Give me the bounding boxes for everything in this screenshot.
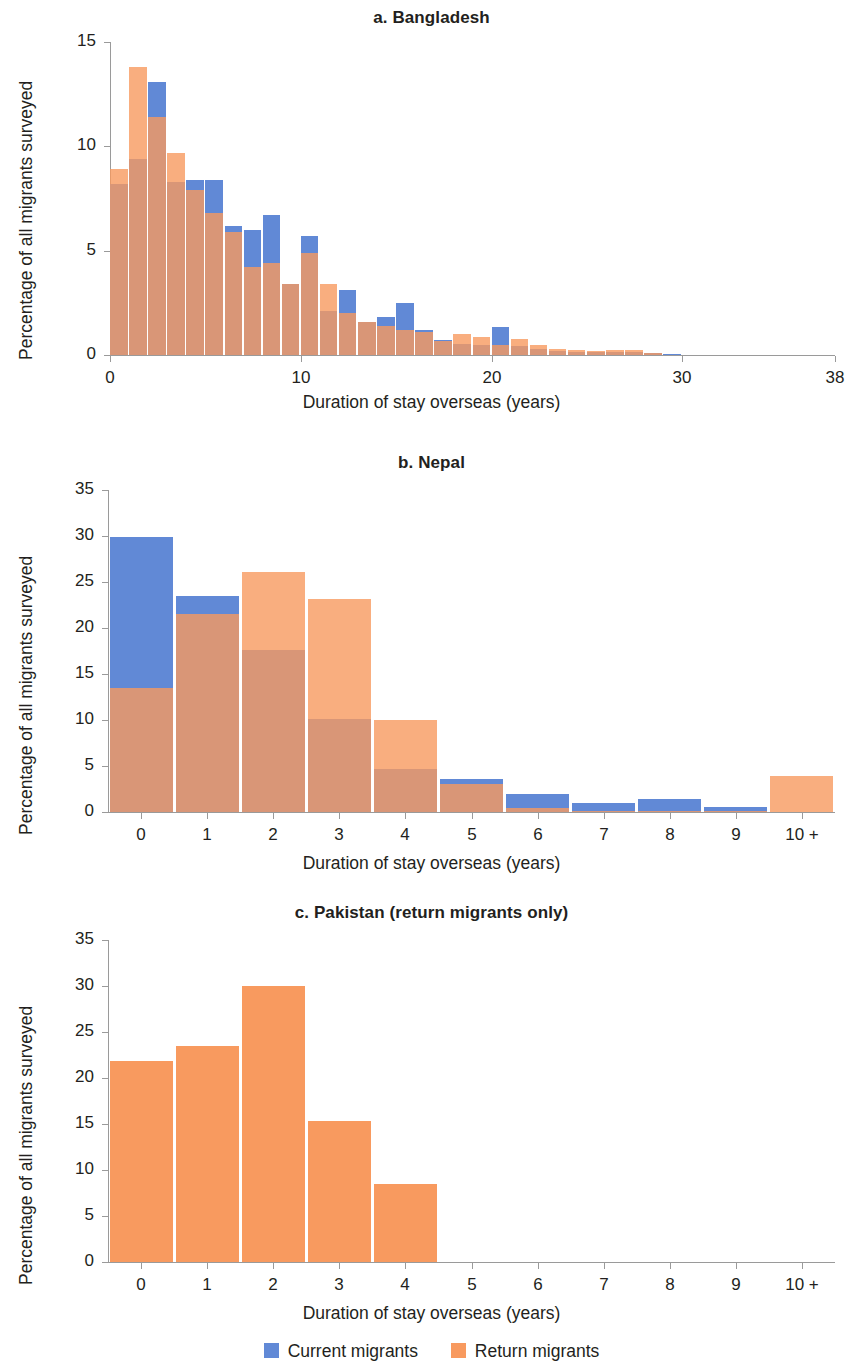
panel-a-x-tick-2 [492,356,493,362]
panel-c-x-tick-0 [141,1263,142,1269]
panel-a-bar-return-4 [186,190,204,355]
panel-a-bar-return-10 [301,253,319,355]
panel-b-bar-return-8 [638,811,701,812]
panel-b-x-tick-10 [802,813,803,819]
panel-b-x-tick-label-10: 10 + [767,825,837,845]
panel-a-bar-return-24 [568,350,586,355]
panel-b-y-tick-label-4: 20 [50,617,94,637]
panel-a-x-tick-label-0: 0 [75,368,145,388]
panel-c-x-tick-label-7: 7 [569,1275,639,1295]
panel-c-x-tick-label-9: 9 [701,1275,771,1295]
panel-b-y-tick-label-0: 0 [50,801,94,821]
panel-c-x-tick-2 [273,1263,274,1269]
panel-a-x-tick-label-3: 30 [647,368,717,388]
panel-c-bar-return-2 [242,986,305,1262]
panel-a-bar-return-26 [606,350,624,355]
panel-b-y-tick-0 [102,812,108,813]
panel-c-bar-return-4 [374,1184,437,1262]
panel-a-bar-return-18 [453,334,471,355]
legend-label-current-migrants: Current migrants [288,1341,418,1362]
panel-a-bar-return-17 [434,341,452,355]
panel-c-title: c. Pakistan (return migrants only) [0,903,863,923]
panel-b-x-tick-label-1: 1 [172,825,242,845]
panel-c-y-tick-label-1: 5 [50,1205,94,1225]
panel-b-bar-return-5 [440,784,503,812]
panel-b-bar-return-10 [770,776,833,812]
panel-a-bar-return-23 [549,349,567,355]
legend-item-return-migrants: Return migrants [451,1341,600,1362]
panel-b-y-tick-label-7: 35 [50,479,94,499]
panel-a-y-axis-label: Percentage of all migrants surveyed [16,81,37,360]
panel-b-x-tick-7 [604,813,605,819]
panel-a-x-axis-label: Duration of stay overseas (years) [0,392,863,413]
panel-a-bar-return-28 [644,353,662,355]
panel-b-bar-current-8 [638,799,701,812]
panel-a-bar-return-6 [225,232,243,355]
panel-b-y-tick-label-3: 15 [50,663,94,683]
panel-b-bar-return-9 [704,811,767,812]
panel-bangladesh: a. Bangladesh Percentage of all migrants… [0,0,863,430]
panel-b-x-tick-label-8: 8 [635,825,705,845]
panel-a-y-tick-label-1: 5 [52,240,96,260]
panel-c-x-tick-4 [405,1263,406,1269]
panel-a-bar-return-25 [587,351,605,355]
panel-c-x-tick-1 [207,1263,208,1269]
panel-a-bar-return-21 [511,339,529,355]
panel-c-y-tick-label-5: 25 [50,1021,94,1041]
panel-a-x-tick-1 [301,356,302,362]
panel-b-x-tick-8 [670,813,671,819]
panel-a-bar-return-9 [282,284,300,355]
panel-a-bar-return-15 [396,330,414,355]
panel-a-y-tick-label-3: 15 [52,31,96,51]
panel-c-y-tick-label-4: 20 [50,1067,94,1087]
panel-a-x-tick-4 [835,356,836,362]
panel-c-x-tick-label-6: 6 [503,1275,573,1295]
panel-a-x-tick-0 [110,356,111,362]
panel-c-x-tick-6 [538,1263,539,1269]
panel-b-bar-return-1 [176,614,239,812]
panel-b-bar-return-7 [572,811,635,812]
panel-b-bar-return-4 [374,720,437,812]
panel-b-y-tick-label-1: 5 [50,755,94,775]
panel-b-x-tick-label-2: 2 [238,825,308,845]
panel-c-x-tick-5 [472,1263,473,1269]
panel-b-x-tick-0 [141,813,142,819]
panel-b-x-tick-2 [273,813,274,819]
panel-c-x-tick-7 [604,1263,605,1269]
panel-b-title: b. Nepal [0,453,863,473]
panel-c-x-tick-3 [339,1263,340,1269]
panel-b-x-tick-1 [207,813,208,819]
panel-b-x-tick-3 [339,813,340,819]
panel-b-x-tick-label-7: 7 [569,825,639,845]
panel-c-y-axis-label: Percentage of all migrants surveyed [16,1006,37,1285]
panel-b-bar-return-6 [506,808,569,812]
panel-b-y-tick-label-6: 30 [50,525,94,545]
panel-a-bar-return-7 [244,267,262,355]
panel-c-y-tick-label-2: 10 [50,1159,94,1179]
panel-c-y-tick-label-3: 15 [50,1113,94,1133]
panel-c-y-tick-label-0: 0 [50,1251,94,1271]
panel-b-x-tick-label-4: 4 [370,825,440,845]
panel-c-x-tick-label-4: 4 [370,1275,440,1295]
panel-c-x-tick-label-10: 10 + [767,1275,837,1295]
panel-a-bar-return-11 [320,284,338,355]
panel-a-bar-return-27 [625,350,643,355]
legend-swatch-return-migrants-icon [451,1343,466,1358]
panel-c-x-tick-label-0: 0 [106,1275,176,1295]
panel-a-x-tick-label-2: 20 [457,368,527,388]
panel-c-y-tick-label-7: 35 [50,929,94,949]
panel-b-x-tick-6 [538,813,539,819]
panel-a-plot-area: 051015010203038 [110,42,835,355]
panel-a-title: a. Bangladesh [0,8,863,28]
panel-b-bar-return-2 [242,572,305,812]
panel-a-bar-return-14 [377,326,395,355]
panel-b-y-tick-label-5: 25 [50,571,94,591]
panel-a-bar-return-0 [110,169,128,355]
legend: Current migrants Return migrants [0,1340,863,1362]
panel-c-x-tick-label-1: 1 [172,1275,242,1295]
panel-b-y-axis-label: Percentage of all migrants surveyed [16,556,37,835]
panel-c-x-tick-label-8: 8 [635,1275,705,1295]
panel-b-x-tick-label-0: 0 [106,825,176,845]
legend-label-return-migrants: Return migrants [475,1341,600,1362]
panel-a-bar-return-2 [148,117,166,355]
